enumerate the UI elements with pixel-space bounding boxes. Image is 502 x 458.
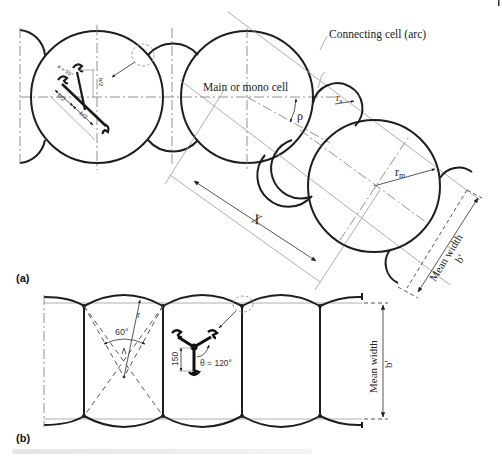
page-edge-mark <box>498 0 500 6</box>
dimension-x: X <box>194 181 316 261</box>
panel-b: r 60° 150 θ = 120° <box>16 293 394 444</box>
arc-construction: r 60° <box>84 300 163 416</box>
wrench-connection-detail: b/2 b/2 b/2 a = 55° <box>50 63 109 140</box>
connecting-cell-label: Connecting cell (arc) <box>329 28 426 41</box>
figure-caption-cutoff <box>12 449 312 454</box>
connecting-arcs-right <box>386 168 472 283</box>
main-cell-3: rm <box>300 120 440 252</box>
dimension-mean-width-b: Mean width b' <box>364 303 394 419</box>
theta-label: θ = 120° <box>200 358 232 368</box>
panel-a: b/2 b/2 b/2 a = 55° Main or mono cell ρ <box>16 12 482 298</box>
dimension-mean-width-a: Mean width b' <box>398 190 482 298</box>
main-cell-label: Main or mono cell <box>203 81 288 93</box>
detail-callout-circle <box>132 44 154 66</box>
panel-b-label: (b) <box>16 432 30 444</box>
detail-angle-label: a = 55° <box>56 63 74 78</box>
detail-half-b-label-3: b/2 <box>98 78 104 87</box>
top-arcs <box>44 295 362 306</box>
b-prime-label-b: b' <box>382 361 394 369</box>
main-cell-2: Main or mono cell ρ <box>181 28 330 170</box>
radius-label-b: r <box>137 310 140 320</box>
rho-label: ρ <box>297 109 303 123</box>
y-wrench-detail: 150 θ = 120° <box>170 296 253 375</box>
rm-label: rm <box>395 165 406 180</box>
bottom-arcs <box>44 416 362 427</box>
mean-width-label-b: Mean width <box>367 340 379 393</box>
panel-a-label: (a) <box>16 272 30 284</box>
dim-150-label: 150 <box>170 352 180 366</box>
wrench-glyph <box>172 330 182 337</box>
ra-label: ra <box>336 92 343 105</box>
wrench-glyph <box>58 76 68 83</box>
main-cell-1: b/2 b/2 b/2 a = 55° <box>20 25 340 170</box>
construction-band <box>165 12 480 290</box>
detail-half-b-label-1: b/2 <box>56 92 67 102</box>
wrench-glyph <box>189 371 199 375</box>
cofferdam-cell-diagram: b/2 b/2 b/2 a = 55° Main or mono cell ρ <box>0 0 502 458</box>
b-prime-label-a: b' <box>453 252 467 265</box>
angle-60-label: 60° <box>115 327 129 337</box>
